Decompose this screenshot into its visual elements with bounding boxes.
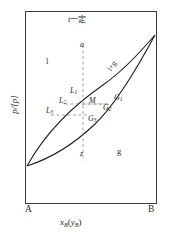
axis-corner-label-b: B xyxy=(148,205,154,215)
point-G1-sub: 1 xyxy=(120,96,123,102)
constant-cjk-label: 一定 xyxy=(70,15,86,24)
point-G2-sub: 2 xyxy=(109,106,112,112)
point-G3-sub: 3 xyxy=(94,117,97,123)
region-label-liquid: l xyxy=(46,57,48,66)
y-axis-label: p/[p] xyxy=(10,77,19,133)
point-label-G1: G1 xyxy=(114,94,123,103)
point-label-L3: L3 xyxy=(46,107,53,116)
point-L3-sub: 3 xyxy=(50,109,53,115)
tieline-bottom-point-label: z xyxy=(80,150,83,158)
point-label-G2: G2 xyxy=(103,104,112,113)
point-label-G3: G3 xyxy=(88,115,97,124)
point-L2-sub: 2 xyxy=(63,99,66,105)
y-axis-label-text: p/[p] xyxy=(9,95,19,114)
region-label-gas: g xyxy=(117,147,121,156)
tieline-top-point-label: a xyxy=(80,41,84,49)
constant-temperature-label: t一定 xyxy=(68,15,86,24)
point-label-L2: L2 xyxy=(59,97,66,106)
phase-diagram-figure: t一定 p/[p] xB(yB) A B a z l g l+g L1 L2 L… xyxy=(0,0,170,236)
axis-corner-label-a: A xyxy=(25,205,32,215)
phase-curves xyxy=(25,11,157,204)
point-L1-sub: 1 xyxy=(74,89,77,95)
point-M-letter: M xyxy=(89,96,96,105)
point-label-L1: L1 xyxy=(70,87,77,96)
point-label-M: M xyxy=(89,97,96,106)
x-axis-paren-close: ) xyxy=(78,217,81,227)
x-axis-label: xB(yB) xyxy=(60,218,81,228)
